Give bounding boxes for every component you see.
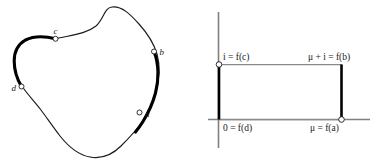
highlighted-arc-b-to-a: [136, 52, 158, 133]
curve-point-d-label: d: [12, 83, 17, 93]
figure-container: a b c d i = f(c) μ + i = f(b) 0 = f(d) μ…: [0, 0, 379, 166]
curve-point-c-marker: [53, 36, 58, 41]
complex-plane-rectangle-diagram: i = f(c) μ + i = f(b) 0 = f(d) μ = f(a): [190, 0, 379, 166]
rectangle-bottom-right-corner-marker: [339, 117, 345, 123]
label-top-right-mu-plus-i-equals-f-of-b: μ + i = f(b): [308, 52, 350, 63]
curve-point-d-marker: [19, 84, 24, 89]
highlighted-arc-d-to-c: [14, 37, 55, 87]
curve-point-b-label: b: [160, 47, 165, 57]
label-top-left-i-equals-f-of-c: i = f(c): [223, 52, 249, 63]
closed-curve-outline: [14, 7, 159, 158]
label-bottom-right-mu-equals-f-of-a: μ = f(a): [310, 123, 339, 134]
rectangle-top-left-corner-marker: [216, 62, 222, 68]
curve-point-c-label: c: [54, 26, 58, 36]
curve-point-a-marker: [137, 110, 142, 115]
curve-point-a-label: a: [145, 109, 150, 119]
closed-curve-diagram: a b c d: [0, 0, 190, 166]
curve-point-b-marker: [152, 49, 157, 54]
label-bottom-left-zero-equals-f-of-d: 0 = f(d): [223, 123, 252, 134]
